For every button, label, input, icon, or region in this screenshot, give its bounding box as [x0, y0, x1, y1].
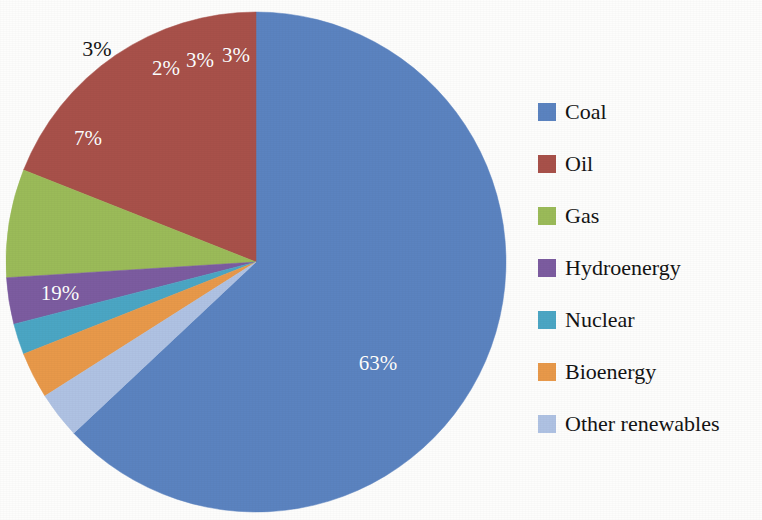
legend-item-label: Bioenergy: [565, 361, 656, 383]
legend-item-hydroenergy[interactable]: Hydroenergy: [538, 242, 762, 294]
legend-swatch-icon: [538, 259, 556, 277]
legend-item-coal[interactable]: Coal: [538, 86, 762, 138]
legend-item-gas[interactable]: Gas: [538, 190, 762, 242]
legend-item-label: Gas: [565, 205, 599, 227]
legend-item-other-renewables[interactable]: Other renewables: [538, 398, 762, 450]
legend: CoalOilGasHydroenergyNuclearBioenergyOth…: [538, 86, 762, 450]
legend-swatch-icon: [538, 415, 556, 433]
legend-swatch-icon: [538, 207, 556, 225]
pie-chart: 63%19%7%3%2%3%3% CoalOilGasHydroenergyNu…: [0, 0, 762, 520]
legend-item-label: Coal: [565, 101, 607, 123]
legend-item-label: Oil: [565, 153, 593, 175]
legend-swatch-icon: [538, 155, 556, 173]
legend-item-nuclear[interactable]: Nuclear: [538, 294, 762, 346]
legend-item-oil[interactable]: Oil: [538, 138, 762, 190]
legend-item-bioenergy[interactable]: Bioenergy: [538, 346, 762, 398]
legend-swatch-icon: [538, 363, 556, 381]
legend-item-label: Hydroenergy: [565, 257, 681, 279]
legend-swatch-icon: [538, 103, 556, 121]
legend-item-label: Other renewables: [565, 413, 720, 435]
legend-item-label: Nuclear: [565, 309, 635, 331]
legend-swatch-icon: [538, 311, 556, 329]
pie-plot-area: 63%19%7%3%2%3%3%: [0, 0, 520, 520]
pie-slice-group: [6, 12, 506, 512]
pie-svg: [0, 0, 520, 520]
